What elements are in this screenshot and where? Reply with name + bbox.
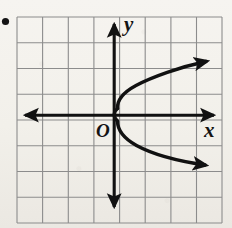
parabola-lower-branch — [118, 121, 206, 165]
y-axis-label: y — [121, 12, 134, 36]
coordinate-plot: y x O — [0, 0, 232, 228]
grid-lines — [17, 17, 222, 223]
origin-label: O — [96, 120, 110, 141]
x-axis-label: x — [203, 118, 215, 142]
bullet-marker-icon — [2, 18, 9, 25]
coordinate-grid-figure: y x O — [0, 0, 232, 228]
